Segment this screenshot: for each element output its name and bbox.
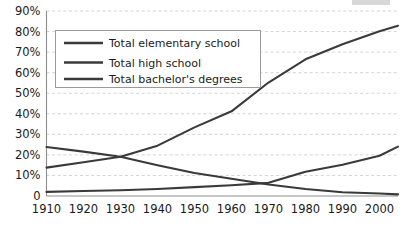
y-axis-tick-labels: 010%20%30%40%50%60%70%80%90% [15,4,41,203]
x-tick-label-1930: 1930 [106,202,135,216]
top-right-artifact [352,0,390,5]
x-tick-label-2000: 2000 [365,202,394,216]
chart-legend: Total elementary schoolTotal high school… [56,31,261,88]
legend-label-0: Total elementary school [108,37,240,50]
line-chart: 010%20%30%40%50%60%70%80%90% 19101920193… [0,0,406,234]
y-tick-label-70: 70% [15,45,41,59]
y-tick-label-30: 30% [15,127,41,141]
chart-canvas: 010%20%30%40%50%60%70%80%90% 19101920193… [0,0,406,234]
legend-label-1: Total high school [108,57,201,70]
x-tick-label-1950: 1950 [180,202,209,216]
x-tick-label-1970: 1970 [254,202,283,216]
x-tick-label-1960: 1960 [217,202,246,216]
x-tick-label-1990: 1990 [328,202,357,216]
x-tick-label-1910: 1910 [32,202,61,216]
y-tick-label-80: 80% [15,25,41,39]
x-tick-label-1980: 1980 [291,202,320,216]
y-tick-label-10: 10% [15,168,41,182]
y-tick-label-50: 50% [15,86,41,100]
legend-label-2: Total bachelor's degrees [108,73,243,86]
y-tick-label-0: 0 [33,189,40,203]
x-tick-label-1940: 1940 [143,202,172,216]
y-tick-label-40: 40% [15,107,41,121]
y-tick-label-20: 20% [15,148,41,162]
y-tick-label-90: 90% [15,4,41,18]
series-line-0 [47,147,399,194]
x-tick-label-1920: 1920 [69,202,98,216]
y-tick-label-60: 60% [15,66,41,80]
x-axis-tick-labels: 1910192019301940195019601970198019902000 [32,202,394,216]
